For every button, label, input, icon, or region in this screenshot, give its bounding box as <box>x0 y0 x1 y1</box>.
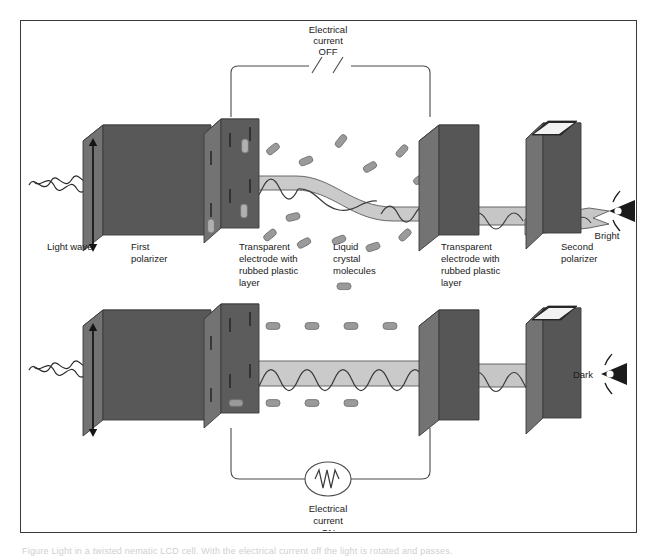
circuit-off-label-line3: OFF <box>319 46 338 57</box>
legend-label-line: Transparent <box>239 241 290 252</box>
legend-second-polarizer: Second polarizer <box>561 241 597 264</box>
molecule-horizontal <box>229 400 243 407</box>
right-electrode-top <box>419 125 479 251</box>
figure-border: Electrical current OFF <box>20 20 637 533</box>
legend-label-line: crystal <box>333 253 360 264</box>
legend-first-polarizer: First polarizer <box>131 241 167 264</box>
left-electrode-bottom <box>204 304 259 428</box>
ac-source-circle <box>305 462 351 496</box>
bright-eye-icon <box>609 191 635 231</box>
legend-label-line: rubbed plastic <box>441 265 500 276</box>
circuit-off-label-line2: current <box>313 35 343 46</box>
legend-label-line: Light wave <box>47 241 92 252</box>
legend-label-line: electrode with <box>441 253 500 264</box>
figure-caption: Figure Light in a twisted nematic LCD ce… <box>22 546 632 557</box>
legend-left-electrode: Transparent electrode with rubbed plasti… <box>239 241 298 288</box>
legend-label-line: molecules <box>333 265 376 276</box>
circuit-break-slash-2 <box>333 57 343 73</box>
legend-right-electrode: Transparent electrode with rubbed plasti… <box>441 241 500 288</box>
legend-label-line: layer <box>239 277 260 288</box>
legend-label-line: rubbed plastic <box>239 265 298 276</box>
bright-label: Bright <box>595 230 620 241</box>
circuit-on-label-line1: Electrical <box>309 503 348 514</box>
legend-label-line: layer <box>441 277 462 288</box>
circuit-on-label-line2: current <box>313 515 343 526</box>
first-polarizer-top <box>83 125 211 252</box>
second-polarizer-top <box>526 121 581 249</box>
circuit-on-label-line3: ON <box>321 527 335 531</box>
circuit-off-wire <box>231 57 430 117</box>
legend-light-wave: Light wave <box>47 241 92 252</box>
figure-root: Electrical current OFF <box>0 0 653 557</box>
lcd-diagram-svg: Electrical current OFF <box>21 21 635 531</box>
left-electrode-top <box>204 119 259 243</box>
dark-label: Dark <box>573 369 593 380</box>
legend-label-line: First <box>131 241 150 252</box>
legend-label-line: Liquid <box>333 241 358 252</box>
molecule-vertical <box>242 139 249 153</box>
legend-label-line: Second <box>561 241 593 252</box>
circuit-on-wire <box>231 428 430 496</box>
legend-label-line: polarizer <box>131 253 167 264</box>
dark-eye-icon <box>601 354 627 394</box>
molecule-vertical <box>208 219 215 233</box>
circuit-break-slash-1 <box>312 57 322 73</box>
bottom-panel-group: Dark Electrical current ON <box>29 304 627 531</box>
top-panel-group: Electrical current OFF <box>29 24 635 252</box>
molecule-vertical <box>241 204 248 218</box>
legend-label-line: Transparent <box>441 241 492 252</box>
first-polarizer-bottom <box>83 310 211 437</box>
legend-molecule-swatch <box>337 283 351 290</box>
circuit-off-label-line1: Electrical <box>309 24 348 35</box>
right-electrode-bottom <box>419 310 479 436</box>
legend-row: Light wave First polarizer Transparent e… <box>47 241 597 290</box>
legend-label-line: electrode with <box>239 253 298 264</box>
legend-label-line: polarizer <box>561 253 597 264</box>
